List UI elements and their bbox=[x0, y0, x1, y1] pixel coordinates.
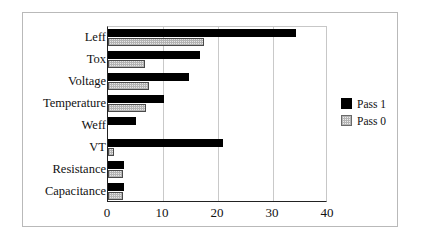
x-axis-tick-30: 30 bbox=[266, 205, 279, 221]
y-axis-label-voltage: Voltage bbox=[2, 74, 106, 88]
bar-group bbox=[108, 49, 326, 71]
y-axis-label-resistance: Resistance bbox=[2, 162, 106, 176]
bar-group bbox=[108, 115, 326, 137]
legend-item-pass-1[interactable]: Pass 1 bbox=[341, 96, 401, 111]
x-axis-tick-10: 10 bbox=[156, 205, 169, 221]
bar-group bbox=[108, 93, 326, 115]
bar-vt-pass-0 bbox=[108, 148, 114, 156]
bar-resistance-pass-0 bbox=[108, 170, 123, 178]
bar-tox-pass-1 bbox=[108, 51, 200, 59]
x-axis-tick-0: 0 bbox=[104, 205, 111, 221]
bar-group bbox=[108, 27, 326, 49]
legend-label: Pass 1 bbox=[357, 98, 386, 110]
y-axis-label-leff: Leff bbox=[2, 30, 106, 44]
bar-tox-pass-0 bbox=[108, 60, 145, 68]
bar-leff-pass-0 bbox=[108, 38, 204, 46]
y-axis-label-vt: VT bbox=[2, 140, 106, 154]
bar-resistance-pass-1 bbox=[108, 161, 124, 169]
bar-weff-pass-1 bbox=[108, 117, 136, 125]
bar-temperature-pass-0 bbox=[108, 104, 146, 112]
bar-chart-figure: LeffToxVoltageTemperatureWeffVTResistanc… bbox=[0, 0, 421, 240]
legend-item-pass-0[interactable]: Pass 0 bbox=[341, 113, 401, 128]
bar-leff-pass-1 bbox=[108, 29, 296, 37]
bar-vt-pass-1 bbox=[108, 139, 223, 147]
x-axis-tick-40: 40 bbox=[321, 205, 334, 221]
y-axis-label-weff: Weff bbox=[2, 118, 106, 132]
legend-swatch-icon-pass1 bbox=[341, 98, 352, 109]
bar-temperature-pass-1 bbox=[108, 95, 164, 103]
y-axis-label-temperature: Temperature bbox=[2, 96, 106, 110]
bar-group bbox=[108, 137, 326, 159]
bar-capacitance-pass-0 bbox=[108, 192, 123, 200]
bar-group bbox=[108, 71, 326, 93]
bar-group bbox=[108, 159, 326, 181]
plot-area bbox=[107, 26, 327, 202]
y-axis-label-tox: Tox bbox=[2, 52, 106, 66]
bar-capacitance-pass-1 bbox=[108, 183, 124, 191]
bar-voltage-pass-1 bbox=[108, 73, 189, 81]
x-axis-tick-20: 20 bbox=[211, 205, 224, 221]
bar-group bbox=[108, 181, 326, 203]
legend-swatch-icon-pass0 bbox=[341, 115, 352, 126]
y-axis-category-labels: LeffToxVoltageTemperatureWeffVTResistanc… bbox=[0, 26, 106, 202]
chart-legend: Pass 1Pass 0 bbox=[341, 96, 401, 130]
y-axis-label-capacitance: Capacitance bbox=[2, 184, 106, 198]
bar-voltage-pass-0 bbox=[108, 82, 149, 90]
x-axis-tick-labels: 010203040 bbox=[107, 205, 327, 225]
legend-label: Pass 0 bbox=[357, 115, 386, 127]
